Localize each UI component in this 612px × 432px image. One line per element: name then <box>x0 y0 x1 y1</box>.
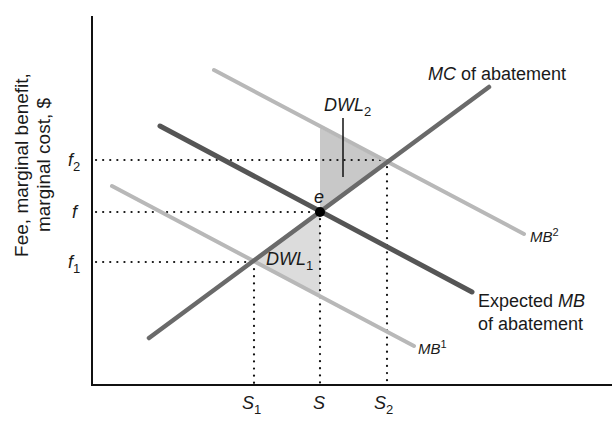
mb2-label: MB2 <box>530 226 559 245</box>
y-axis-title-line2: marginal cost, $ <box>33 98 54 233</box>
y-tick-f2: f2 <box>68 150 80 174</box>
dwl2-label: DWL2 <box>324 95 371 119</box>
equilibrium-point <box>315 207 325 217</box>
equilibrium-label: e <box>314 187 324 207</box>
y-axis-title: Fee, marginal benefit, marginal cost, $ <box>11 73 54 257</box>
x-tick-s2: S2 <box>374 393 393 417</box>
expected-mb-label-line1: Expected MB <box>478 291 585 311</box>
y-tick-f1: f1 <box>68 252 80 276</box>
expected-mb-label-line2: of abatement <box>478 314 583 334</box>
fee-vs-abatement-diagram: Fee, marginal benefit, marginal cost, $ … <box>0 0 612 432</box>
y-tick-f: f <box>72 202 79 222</box>
mb1-label: MB1 <box>418 338 447 357</box>
mb1-curve <box>112 186 414 346</box>
x-tick-s: S <box>313 393 325 413</box>
x-tick-s1: S1 <box>242 393 261 417</box>
mc-label: MC of abatement <box>428 64 566 84</box>
y-axis-title-line1: Fee, marginal benefit, <box>11 73 32 257</box>
